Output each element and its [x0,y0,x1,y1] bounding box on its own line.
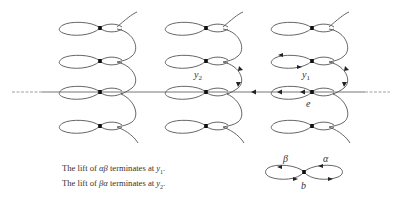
arrow-icon [238,66,243,71]
arrow-icon [277,90,282,95]
label-y1: y1 [301,69,310,82]
arrow-icon [251,90,256,95]
caption-line-2: The lift of βα terminates at y2. [62,178,165,193]
label-alpha: α [323,153,329,164]
sheet-column-3 [271,12,350,143]
arrow-icon [344,66,349,71]
sheet-column-2 [165,12,244,143]
label-y2: y2 [193,69,202,82]
sheet-column-1 [59,12,138,143]
covering-space-diagram: y2 y1 e β α b [0,0,394,200]
base-space-figure-eight: β α b [266,153,343,191]
label-b: b [301,180,306,191]
label-beta: β [282,153,288,164]
label-e: e [306,98,311,109]
caption-line-1: The lift of αβ terminates at y1. [62,163,165,178]
caption: The lift of αβ terminates at y1. The lif… [62,163,165,192]
arrow-icon [318,164,323,168]
arrow-icon [328,177,333,181]
arrow-icon [300,90,305,95]
